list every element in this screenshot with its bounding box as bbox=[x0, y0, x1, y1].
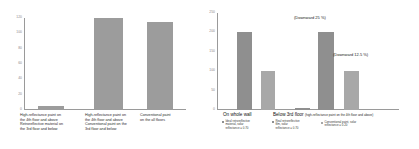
legend-line-2: reflectance = 0.70 bbox=[225, 127, 250, 130]
figure-root: 120 100 80 60 40 20 0 High-reflectance p… bbox=[0, 0, 419, 149]
legend-line-1: reflectance = 0.20 bbox=[324, 124, 356, 127]
bar-chart-left: 120 100 80 60 40 20 0 High-reflectance p… bbox=[0, 0, 195, 149]
legend-text-real-retroreflective: Real retroreflective film, solar reflect… bbox=[275, 120, 299, 130]
y-tick-left-5: 20 bbox=[18, 93, 24, 96]
y-tick-right-2: 150 bbox=[209, 50, 217, 53]
legend-below-3rd-floor-item-1: Conventional paint, solar reflectance = … bbox=[321, 121, 381, 128]
group-label-below-3rd-floor-text: Below 3rd floor bbox=[273, 112, 304, 117]
bar-left-2 bbox=[147, 22, 173, 110]
y-tick-right-1: 200 bbox=[209, 31, 217, 34]
bar-right-0 bbox=[237, 32, 252, 110]
x-label-left-1-line-3: 3rd floor and below bbox=[85, 127, 135, 132]
legend-text-ideal-retroreflective: Ideal retroreflective material, solar re… bbox=[225, 120, 250, 130]
y-tick-right-0: 250 bbox=[209, 11, 217, 14]
bar-left-0 bbox=[38, 106, 64, 110]
x-label-left-0: High-reflectance paint on the 4th floor … bbox=[20, 113, 72, 132]
plot-area-right: 250 200 150 100 50 0 bbox=[217, 13, 399, 110]
bar-right-1 bbox=[261, 71, 275, 110]
legend-swatch-light-icon bbox=[321, 122, 323, 124]
legend-swatch-dark-icon bbox=[222, 121, 224, 123]
x-label-left-1: High-reflectance paint on the 4th floor … bbox=[85, 113, 135, 132]
annotation-downward-25: (Downward 25 %) bbox=[294, 16, 326, 20]
group-label-below-3rd-floor-note: (high-reflectance paint on the 4th floor… bbox=[305, 113, 373, 117]
y-tick-left-6: 0 bbox=[20, 108, 24, 111]
annotation-downward-12-5: (Downward 12.5 %) bbox=[333, 53, 368, 57]
y-tick-left-4: 40 bbox=[18, 78, 24, 81]
bar-left-1 bbox=[94, 18, 123, 110]
y-axis-right bbox=[217, 13, 218, 110]
legend-on-whole-wall-item-0: Ideal retroreflective material, solar re… bbox=[222, 120, 266, 130]
bar-right-3 bbox=[318, 32, 334, 110]
y-tick-left-1: 100 bbox=[16, 32, 24, 35]
legend-swatch-dark-icon bbox=[272, 121, 274, 123]
group-label-below-3rd-floor: Below 3rd floor (high-reflectance paint … bbox=[273, 113, 373, 118]
y-tick-left-0: 120 bbox=[16, 16, 24, 19]
bar-right-2 bbox=[295, 108, 310, 110]
y-tick-right-3: 100 bbox=[209, 69, 217, 72]
legend-below-3rd-floor-item-0: Real retroreflective film, solar reflect… bbox=[272, 120, 312, 130]
plot-area-left: 120 100 80 60 40 20 0 bbox=[24, 18, 186, 110]
legend-text-conventional-paint: Conventional paint, solar reflectance = … bbox=[324, 121, 356, 128]
x-label-left-2-line-1: on the all floors bbox=[140, 118, 186, 123]
bar-chart-right: 250 200 150 100 50 0 (Downward 25 %) (Do… bbox=[195, 0, 419, 149]
y-tick-left-3: 60 bbox=[18, 62, 24, 65]
group-label-on-whole-wall: On whole wall bbox=[223, 113, 252, 118]
y-axis-left bbox=[24, 18, 25, 110]
y-tick-right-5: 0 bbox=[213, 108, 217, 111]
x-label-left-0-line-3: the 3rd floor and below bbox=[20, 127, 72, 132]
y-tick-left-2: 80 bbox=[18, 47, 24, 50]
x-label-left-2: Conventional paint on the all floors bbox=[140, 113, 186, 122]
y-tick-right-4: 50 bbox=[211, 89, 217, 92]
legend-line-2: reflectance = 0.70 bbox=[275, 127, 299, 130]
bar-right-4 bbox=[344, 71, 359, 110]
